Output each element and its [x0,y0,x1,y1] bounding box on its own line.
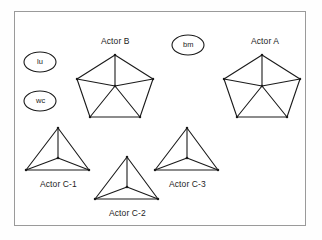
vertex-actor-c-2-2 [94,198,97,201]
vertex-actor-a-0 [261,54,264,57]
vertex-actor-a-1 [299,78,302,81]
shape-label-actor-a: Actor A [251,36,279,46]
shape-actor-b[interactable] [76,54,155,119]
vertex-actor-b-4 [76,78,79,81]
vertex-actor-c-2-1 [157,198,160,201]
vertex-actor-c-2-0 [126,156,129,159]
spoke-actor-a-4 [224,79,262,86]
spoke-actor-a-3 [237,86,262,117]
vertex-actor-b-0 [114,54,117,57]
vertex-actor-c-1-1 [88,169,91,172]
shape-label-actor-b: Actor B [101,36,130,46]
spoke-actor-b-2 [115,86,140,117]
spoke-actor-a-2 [262,86,287,117]
hub-actor-c-3 [186,157,189,160]
ellipses-layer [24,35,204,111]
vertex-actor-b-1 [152,78,155,81]
shape-label-actor-c-1: Actor C-1 [40,179,77,189]
shape-label-actor-c-3: Actor C-3 [169,179,206,189]
vertex-actor-a-3 [236,116,239,119]
ellipse-label-bm: bm [183,40,193,50]
vertex-actor-a-4 [223,78,226,81]
spoke-actor-b-1 [115,79,153,86]
vertex-actor-c-3-1 [217,169,220,172]
diagram-screen: Actor BActor AActor C-1Actor C-2Actor C-… [0,0,322,240]
vertex-actor-c-3-0 [186,127,189,130]
spoke-actor-b-3 [90,86,115,117]
vertex-actor-b-2 [139,116,142,119]
shape-actor-c-3[interactable] [154,127,220,172]
hub-actor-a [261,85,264,88]
shape-actor-c-2[interactable] [94,156,160,201]
shape-actor-c-1[interactable] [25,127,91,172]
spoke-actor-b-4 [77,79,115,86]
shape-actor-a[interactable] [223,54,302,119]
vertex-actor-a-2 [286,116,289,119]
ellipse-label-lu: lu [37,57,43,67]
shape-label-actor-c-2: Actor C-2 [109,208,146,218]
hub-actor-c-2 [126,186,129,189]
spoke-actor-a-1 [262,79,300,86]
vertex-actor-c-3-2 [154,169,157,172]
vertex-actor-c-1-2 [25,169,28,172]
hub-actor-b [114,85,117,88]
hub-actor-c-1 [57,157,60,160]
ellipse-label-wc: wc [36,96,45,106]
vertex-actor-c-1-0 [57,127,60,130]
vertex-actor-b-3 [89,116,92,119]
